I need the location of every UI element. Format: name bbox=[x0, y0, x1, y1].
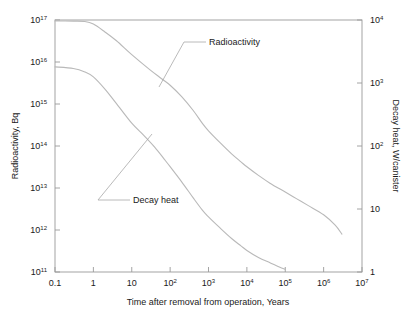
right-axis-ticks bbox=[357, 20, 362, 272]
x-axis-title: Time after removal from operation, Years bbox=[127, 297, 290, 307]
xtick-label-8: 107 bbox=[355, 278, 369, 288]
left-axis-tick-labels: 1011101210131014101510161017 bbox=[30, 15, 47, 277]
xtick-label-5: 104 bbox=[240, 278, 254, 288]
xtick-label-6: 105 bbox=[279, 278, 293, 288]
xtick-label-2: 10 bbox=[127, 278, 137, 288]
bottom-axis-tick-labels: 0.1110102103104105106107 bbox=[49, 278, 370, 288]
bottom-axis-ticks bbox=[55, 267, 362, 272]
figure-container: 1011101210131014101510161017 11010210310… bbox=[0, 0, 404, 317]
right-axis-tick-labels: 110102103104 bbox=[370, 15, 384, 277]
curve-annotations: RadioactivityDecay heat bbox=[98, 37, 261, 205]
ytick-label-4: 1015 bbox=[30, 99, 47, 109]
curve-decay-heat bbox=[55, 67, 285, 269]
leader-line-radioactivity bbox=[159, 42, 206, 87]
ytick-label-6: 1017 bbox=[30, 15, 47, 25]
plot-frame bbox=[55, 20, 362, 272]
y2tick-label-2: 102 bbox=[370, 141, 384, 151]
y2tick-label-3: 103 bbox=[370, 78, 384, 88]
xtick-label-0: 0.1 bbox=[49, 278, 62, 288]
y2tick-label-4: 104 bbox=[370, 15, 384, 25]
ytick-label-1: 1012 bbox=[30, 225, 47, 235]
ytick-label-0: 1011 bbox=[31, 267, 48, 277]
xtick-label-7: 106 bbox=[317, 278, 331, 288]
ytick-label-5: 1016 bbox=[30, 57, 47, 67]
leader-line-decay-heat bbox=[98, 134, 152, 200]
y2tick-label-1: 10 bbox=[370, 204, 380, 214]
ytick-label-3: 1014 bbox=[30, 141, 47, 151]
annotation-label-radioactivity: Radioactivity bbox=[209, 37, 261, 47]
decay-chart: 1011101210131014101510161017 11010210310… bbox=[0, 0, 404, 317]
left-axis-ticks bbox=[55, 20, 60, 272]
y2-axis-title: Decay heat, W/canister bbox=[391, 99, 401, 192]
xtick-label-4: 103 bbox=[202, 278, 216, 288]
annotation-label-decay-heat: Decay heat bbox=[133, 195, 179, 205]
xtick-label-1: 1 bbox=[91, 278, 96, 288]
xtick-label-3: 102 bbox=[163, 278, 177, 288]
ytick-label-2: 1013 bbox=[30, 183, 47, 193]
curve-radioactivity bbox=[55, 21, 342, 234]
y2tick-label-0: 1 bbox=[370, 267, 375, 277]
y-axis-title: Radioactivity, Bq bbox=[10, 113, 20, 179]
data-curves bbox=[55, 21, 342, 269]
